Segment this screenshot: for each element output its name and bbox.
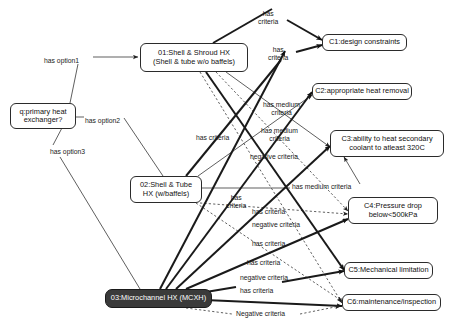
edge-label-l-k: has criteria	[252, 240, 285, 248]
edge-label-l-opt3: has option3	[50, 148, 85, 156]
edge-label-l-d: has medium criteria	[261, 127, 298, 143]
node-label: C2:appropriate heat removal	[315, 87, 409, 95]
node-label: q:primary heat exchanger?	[19, 108, 66, 125]
edge-label-l-a: has criteria	[258, 10, 278, 26]
node-c3[interactable]: C3:ability to heat secondary coolant to …	[330, 130, 444, 157]
edge-label-l-e: has criteria	[196, 134, 229, 142]
node-o3[interactable]: 03:Microchannel HX (MCXH)	[105, 289, 212, 308]
node-c1[interactable]: C1:design constraints	[322, 34, 407, 51]
edge-label-l-n: has criteria	[240, 287, 273, 295]
node-label: C6:maintenance/inspection	[347, 298, 436, 306]
edge-label-l-f: negative criteria	[250, 153, 298, 161]
edge-label-l-h: has criteria	[226, 194, 246, 210]
edge-line	[70, 64, 78, 103]
node-label: C4:Pressure drop below<500kPa	[364, 202, 422, 219]
edge-label-l-opt2: has option2	[85, 117, 120, 125]
node-label: 02:Shell & Tube HX (w/baffels)	[140, 181, 192, 198]
node-c2[interactable]: C2:appropriate heat removal	[312, 83, 412, 100]
edge-line	[300, 306, 340, 314]
edge-line	[287, 20, 322, 40]
edge-label-l-opt1: has option1	[44, 57, 79, 65]
node-c4[interactable]: C4:Pressure drop below<500kPa	[348, 197, 438, 224]
node-label: C5:Mechanical limitation	[348, 266, 428, 274]
edge-line	[60, 157, 140, 289]
edge-line	[124, 118, 163, 176]
edge-label-l-b: has criteria	[268, 46, 288, 62]
edge-label-l-i: has criteria	[252, 208, 285, 216]
edge-label-l-m: negative criteria	[240, 274, 288, 282]
node-label: 03:Microchannel HX (MCXH)	[111, 294, 206, 302]
edge-line	[186, 308, 232, 314]
node-c6[interactable]: C6:maintenance/inspection	[342, 294, 441, 311]
node-o2[interactable]: 02:Shell & Tube HX (w/baffels)	[130, 176, 202, 203]
edge-line	[205, 300, 342, 306]
edge-line	[282, 271, 344, 282]
node-label: C3:ability to heat secondary coolant to …	[341, 135, 432, 152]
edge-label-l-l: has criteria	[247, 259, 280, 267]
edge-label-l-c: has medium criteria	[263, 101, 300, 117]
node-label: C1:design constraints	[329, 38, 400, 46]
edge-line	[296, 45, 322, 52]
node-c5[interactable]: C5:Mechanical limitation	[344, 262, 433, 279]
edge-label-l-j: negative criteria	[252, 221, 300, 229]
edge-line	[344, 157, 360, 184]
node-q[interactable]: q:primary heat exchanger?	[10, 103, 76, 129]
node-o1[interactable]: 01:Shell & Shroud HX (Shell & tube w/o b…	[140, 43, 248, 72]
edge-label-l-o: Negative criteria	[236, 310, 285, 318]
node-label: 01:Shell & Shroud HX (Shell & tube w/o b…	[153, 49, 235, 66]
diagram-canvas: q:primary heat exchanger?01:Shell & Shro…	[0, 0, 451, 331]
edge-label-l-g: has medium criteria	[292, 183, 351, 191]
